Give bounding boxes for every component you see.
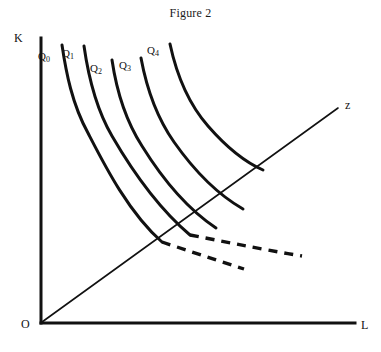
curve-label-q0: Q0 xyxy=(38,50,50,62)
curve-label-q4-base: Q xyxy=(147,44,155,56)
curve-label-q1: Q1 xyxy=(62,47,74,59)
curve-label-q1-sub: 1 xyxy=(70,52,74,61)
curve-label-q2: Q2 xyxy=(90,62,102,74)
isoquant-curve-q4 xyxy=(170,44,263,170)
curve-label-q3: Q3 xyxy=(119,59,131,71)
curve-label-q0-sub: 0 xyxy=(46,55,50,64)
curve-label-q0-base: Q xyxy=(38,50,46,62)
expansion-ray-z xyxy=(42,108,338,322)
axis-label-l: L xyxy=(361,318,368,333)
curve-label-q2-base: Q xyxy=(90,62,98,74)
isoquant-plot xyxy=(0,0,381,352)
isoquant-dashed-lower xyxy=(162,242,244,269)
curve-label-q3-sub: 3 xyxy=(127,64,131,73)
curve-label-q3-base: Q xyxy=(119,59,127,71)
axis-label-k: K xyxy=(14,31,23,46)
figure-container: Figure 2 K L O z Q0 Q1 Q2 Q3 xyxy=(0,0,381,352)
curve-label-q4: Q4 xyxy=(147,44,159,56)
ray-label-z: z xyxy=(345,98,350,113)
curve-label-q1-base: Q xyxy=(62,47,70,59)
isoquant-dashed-upper xyxy=(190,235,302,256)
origin-label: O xyxy=(21,317,30,332)
curve-label-q2-sub: 2 xyxy=(98,67,102,76)
isoquant-curve-q3 xyxy=(141,58,243,209)
isoquant-curve-q0 xyxy=(62,45,162,242)
curve-label-q4-sub: 4 xyxy=(155,49,159,58)
